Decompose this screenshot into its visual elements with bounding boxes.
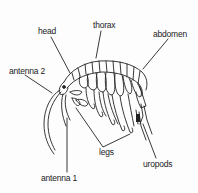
- label-antenna-1: antenna 1: [41, 173, 77, 183]
- leader-uropods: [143, 124, 156, 158]
- leader-head: [51, 37, 70, 73]
- leader-abdomen: [143, 39, 168, 69]
- label-head: head: [38, 26, 56, 36]
- leader-thorax: [96, 31, 101, 58]
- leader-antenna2: [25, 75, 52, 93]
- label-uropods: uropods: [143, 159, 172, 169]
- label-legs: legs: [99, 147, 114, 157]
- diagram-canvas: head thorax abdomen antenna 2 legs uropo…: [0, 0, 198, 193]
- label-abdomen: abdomen: [153, 29, 187, 39]
- label-antenna-2: antenna 2: [9, 66, 45, 76]
- label-thorax: thorax: [93, 20, 115, 30]
